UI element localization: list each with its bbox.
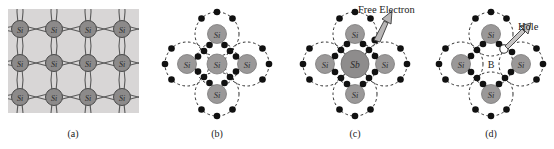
svg-text:Si: Si bbox=[119, 60, 125, 69]
svg-text:Si: Si bbox=[17, 94, 23, 103]
lattice-atom-si: Si bbox=[46, 21, 63, 38]
svg-text:Si: Si bbox=[322, 60, 329, 70]
svg-text:Si: Si bbox=[51, 94, 57, 103]
svg-text:Si: Si bbox=[518, 60, 525, 70]
semiconductor-doping-figure: Si Si Si Si Si Si Si Si Si bbox=[0, 0, 554, 149]
atom-si-bottom: Si bbox=[482, 85, 501, 104]
free-electron-label: Free Electron bbox=[358, 4, 415, 15]
svg-text:Si: Si bbox=[382, 60, 389, 70]
svg-text:Si: Si bbox=[458, 60, 465, 70]
lattice-atom-si: Si bbox=[114, 89, 131, 106]
lattice-atom-si: Si bbox=[46, 89, 63, 106]
svg-text:Si: Si bbox=[214, 60, 221, 70]
atom-si-bottom: Si bbox=[346, 85, 365, 104]
atom-si-right: Si bbox=[238, 55, 257, 74]
lattice-atom-si: Si bbox=[46, 55, 63, 72]
panel-a-silicon-lattice: Si Si Si Si Si Si Si Si Si bbox=[8, 9, 139, 113]
lattice-atom-si: Si bbox=[80, 21, 97, 38]
caption-panel-c: (c) bbox=[335, 128, 375, 139]
atom-si-right: Si bbox=[512, 55, 531, 74]
atom-si-top: Si bbox=[346, 25, 365, 44]
svg-text:Si: Si bbox=[214, 90, 221, 100]
atom-si-bottom: Si bbox=[208, 85, 227, 104]
atom-sb-center: Sb bbox=[341, 50, 369, 78]
atom-si-left: Si bbox=[452, 55, 471, 74]
svg-text:Si: Si bbox=[85, 94, 91, 103]
atom-b-center: B bbox=[488, 59, 495, 70]
svg-text:Si: Si bbox=[119, 94, 125, 103]
atom-si-left: Si bbox=[316, 55, 335, 74]
panel-b-covalent-bond: Si Si Si Si Si bbox=[158, 5, 276, 123]
lattice-atom-si: Si bbox=[80, 89, 97, 106]
caption-panel-d: (d) bbox=[471, 128, 511, 139]
lattice-atom-si: Si bbox=[12, 21, 29, 38]
svg-text:Si: Si bbox=[51, 60, 57, 69]
svg-text:Si: Si bbox=[488, 30, 495, 40]
lattice-atom-si: Si bbox=[80, 55, 97, 72]
lattice-atom-si: Si bbox=[114, 55, 131, 72]
lattice-atom-si: Si bbox=[114, 21, 131, 38]
svg-text:Si: Si bbox=[85, 60, 91, 69]
atom-si-top: Si bbox=[208, 25, 227, 44]
panel-c-n-type-doping: Si Si Si Si Sb bbox=[296, 5, 414, 123]
svg-text:Si: Si bbox=[352, 90, 359, 100]
svg-text:Si: Si bbox=[119, 26, 125, 35]
svg-text:Si: Si bbox=[85, 26, 91, 35]
atom-si-left: Si bbox=[178, 55, 197, 74]
svg-text:Si: Si bbox=[184, 60, 191, 70]
caption-panel-b: (b) bbox=[197, 128, 237, 139]
atom-si-top: Si bbox=[482, 25, 501, 44]
svg-text:Si: Si bbox=[352, 30, 359, 40]
lattice-atom-si: Si bbox=[12, 55, 29, 72]
svg-text:Si: Si bbox=[51, 26, 57, 35]
atom-si-center: Si bbox=[207, 54, 227, 74]
svg-text:Si: Si bbox=[214, 30, 221, 40]
free-electron-arrow bbox=[374, 11, 392, 42]
svg-text:Si: Si bbox=[17, 26, 23, 35]
svg-text:Si: Si bbox=[488, 90, 495, 100]
svg-text:Si: Si bbox=[244, 60, 251, 70]
svg-text:B: B bbox=[488, 59, 495, 70]
atom-si-right: Si bbox=[376, 55, 395, 74]
neighbor-atoms-b: Si Si Si Si Si bbox=[178, 25, 257, 104]
svg-text:Sb: Sb bbox=[350, 60, 360, 70]
lattice-atom-si: Si bbox=[12, 89, 29, 106]
caption-panel-a: (a) bbox=[53, 128, 93, 139]
svg-text:Si: Si bbox=[17, 60, 23, 69]
hole-label: Hole bbox=[518, 21, 538, 32]
